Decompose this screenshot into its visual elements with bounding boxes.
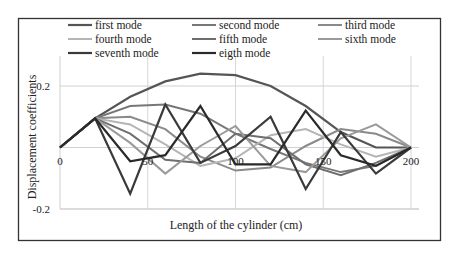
x-tick-label: 200 bbox=[403, 155, 420, 167]
legend-label: second mode bbox=[219, 19, 279, 31]
y-tick-label: -0.2 bbox=[33, 203, 50, 215]
legend-label: third mode bbox=[345, 19, 395, 31]
legend-label: fifth mode bbox=[219, 33, 267, 45]
legend-label: fourth mode bbox=[95, 33, 152, 45]
chart-svg: first modesecond modethird modefourth mo… bbox=[0, 0, 453, 255]
legend-label: eigth mode bbox=[219, 47, 270, 60]
y-axis-label: Displacement coefficients bbox=[25, 74, 39, 199]
x-axis-label: Length of the cylinder (cm) bbox=[170, 218, 303, 232]
x-tick-label: 100 bbox=[227, 155, 244, 167]
x-tick-label: 50 bbox=[142, 155, 154, 167]
legend-label: sixth mode bbox=[345, 33, 396, 45]
legend-label: first mode bbox=[95, 19, 142, 31]
legend: first modesecond modethird modefourth mo… bbox=[68, 19, 396, 60]
x-tick-label: 0 bbox=[57, 155, 63, 167]
legend-label: seventh mode bbox=[95, 47, 159, 59]
x-tick-label: 150 bbox=[315, 155, 332, 167]
